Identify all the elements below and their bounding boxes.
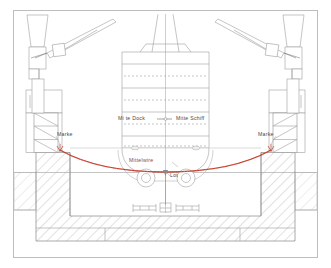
- keel-blocks: [133, 203, 199, 212]
- keel-block-right: [176, 204, 199, 212]
- label-marke-left: Marke: [57, 131, 73, 137]
- quay-hatch-right: [295, 173, 317, 211]
- lot-plumb-line: [163, 170, 168, 205]
- dock-cross-section-drawing: [0, 0, 331, 268]
- label-mitte-dock: Mi te Dock: [118, 115, 145, 121]
- crane-tower-right: [215, 15, 304, 113]
- ladder-left: [34, 113, 58, 153]
- label-mitte-schiff: Mitte Schiff: [176, 115, 205, 121]
- label-lot: Lot: [170, 172, 178, 178]
- ladder-right: [273, 113, 297, 153]
- label-mittelwire: Mittelwire: [129, 157, 153, 163]
- drawing-canvas: Mi te Dock Mitte Schiff Marke Marke Mitt…: [0, 0, 331, 268]
- crane-tower-left: [27, 15, 116, 113]
- mitte-node: [164, 118, 167, 121]
- label-marke-right: Marke: [258, 131, 274, 137]
- quay-hatch-left: [14, 173, 36, 211]
- keel-block-left: [133, 204, 156, 212]
